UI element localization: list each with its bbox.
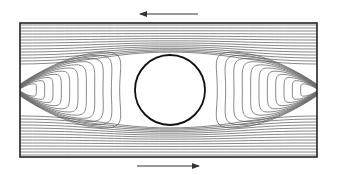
shear-flow-figure bbox=[0, 0, 337, 175]
streamline-diagram bbox=[0, 0, 337, 175]
cylinder bbox=[135, 55, 205, 125]
